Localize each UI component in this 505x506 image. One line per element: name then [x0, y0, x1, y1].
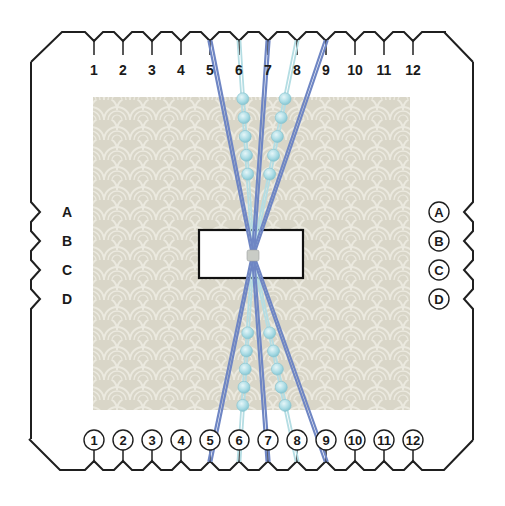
bead — [239, 130, 251, 142]
bottom-slot-label: 7 — [264, 433, 271, 448]
top-slot-label: 2 — [119, 62, 127, 78]
bead — [238, 381, 250, 393]
bottom-slot-label: 2 — [119, 433, 126, 448]
bottom-slot-label: 11 — [377, 433, 391, 448]
top-edge — [31, 32, 473, 62]
bead — [268, 149, 280, 161]
bead — [238, 112, 250, 124]
top-slot-label: 1 — [90, 62, 98, 78]
bead — [242, 327, 254, 339]
top-slot-label: 10 — [347, 62, 363, 78]
bead — [279, 93, 291, 105]
bead — [237, 93, 249, 105]
bottom-slot-label: 8 — [293, 433, 300, 448]
bead — [242, 168, 254, 180]
center-knot — [247, 250, 259, 261]
bead — [237, 399, 249, 411]
top-slot-label: 7 — [264, 62, 272, 78]
right-slot-label: A — [434, 205, 444, 220]
right-slot-label: C — [434, 263, 444, 278]
bead — [240, 345, 252, 357]
top-slot-label: 5 — [206, 62, 214, 78]
bead — [239, 363, 251, 375]
top-slot-label: 8 — [293, 62, 301, 78]
bead — [271, 130, 283, 142]
bottom-slot-label: 9 — [322, 433, 329, 448]
bead — [264, 168, 276, 180]
kumihimo-plate-diagram: 123456789101112123456789101112ABCDABCD — [0, 0, 505, 506]
bottom-slot-label: 5 — [206, 433, 213, 448]
left-slot-label: C — [62, 262, 72, 278]
right-slot-label: B — [434, 234, 443, 249]
left-slot-label: A — [62, 204, 72, 220]
bottom-slot-label: 6 — [235, 433, 242, 448]
bottom-slot-label: 4 — [177, 433, 185, 448]
top-slot-label: 4 — [177, 62, 185, 78]
left-slot-label: D — [62, 291, 72, 307]
top-slot-label: 3 — [148, 62, 156, 78]
bottom-slot-label: 10 — [348, 433, 362, 448]
top-slot-label: 11 — [377, 62, 392, 78]
diagram-canvas: 123456789101112123456789101112ABCDABCD — [0, 0, 505, 506]
top-slot-label: 6 — [235, 62, 243, 78]
bead — [275, 112, 287, 124]
bead — [279, 399, 291, 411]
bead — [275, 381, 287, 393]
top-slot-label: 9 — [322, 62, 330, 78]
right-edge — [464, 62, 473, 440]
top-slot-label: 12 — [405, 62, 421, 78]
bead — [264, 327, 276, 339]
right-slot-label: D — [434, 292, 443, 307]
bottom-slot-label: 1 — [90, 433, 97, 448]
left-edge — [31, 62, 40, 439]
bottom-slot-label: 3 — [148, 433, 155, 448]
bead — [240, 149, 252, 161]
left-slot-label: B — [62, 233, 72, 249]
bottom-slot-label: 12 — [406, 433, 420, 448]
bead — [271, 363, 283, 375]
bead — [268, 345, 280, 357]
